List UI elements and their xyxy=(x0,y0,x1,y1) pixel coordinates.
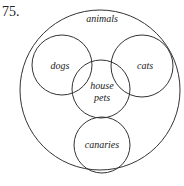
canaries-label: canaries xyxy=(85,139,120,150)
venn-diagram: animals dogs cats house pets canaries xyxy=(0,0,184,186)
animals-label: animals xyxy=(86,13,118,24)
house-pets-label-line2: pets xyxy=(93,92,110,103)
house-pets-label-line1: house xyxy=(90,80,114,91)
dogs-label: dogs xyxy=(51,60,70,71)
cats-label: cats xyxy=(137,60,153,71)
